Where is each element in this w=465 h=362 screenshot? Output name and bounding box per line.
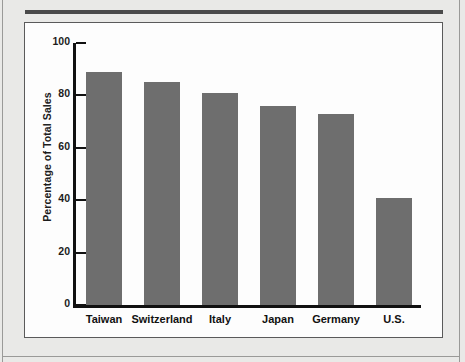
- y-axis-tick: 60: [76, 147, 86, 149]
- bar-taiwan[interactable]: [86, 72, 122, 305]
- y-axis-tick-mark: [76, 304, 86, 306]
- y-axis-tick-label: 20: [58, 245, 70, 257]
- bar-italy[interactable]: [202, 93, 238, 305]
- page-border-right: [459, 0, 460, 362]
- y-axis-tick-label: 40: [58, 192, 70, 204]
- bar-japan[interactable]: [260, 106, 296, 305]
- y-axis-tick-mark: [76, 147, 86, 149]
- page-border-bottom: [2, 356, 460, 357]
- y-axis-tick-label: 80: [58, 87, 70, 99]
- y-axis-tick: 0: [76, 304, 86, 306]
- y-axis-title: Percentage of Total Sales: [41, 57, 53, 257]
- figure-page: Percentage of Total Sales 020406080100 T…: [0, 0, 465, 362]
- y-axis-tick-mark: [76, 199, 86, 201]
- y-axis-tick: 100: [76, 42, 86, 44]
- y-axis-tick-mark: [76, 252, 86, 254]
- y-axis-tick-mark: [76, 94, 86, 96]
- y-axis-line: [73, 43, 76, 305]
- bar-germany[interactable]: [318, 114, 354, 305]
- x-axis-label: U.S.: [359, 313, 429, 325]
- chart-panel: Percentage of Total Sales 020406080100 T…: [24, 22, 443, 338]
- page-border-left: [2, 0, 3, 362]
- y-axis-tick-label: 60: [58, 140, 70, 152]
- y-axis-tick-mark: [76, 42, 86, 44]
- top-rule: [25, 10, 443, 14]
- bar-switzerland[interactable]: [144, 82, 180, 305]
- y-axis-tick-label: 0: [64, 297, 70, 309]
- bar-chart-plot: Percentage of Total Sales 020406080100 T…: [25, 23, 442, 337]
- x-axis-line: [73, 305, 421, 308]
- y-axis-tick: 80: [76, 94, 86, 96]
- y-axis-tick-label: 100: [52, 35, 70, 47]
- y-axis-tick: 20: [76, 252, 86, 254]
- bar-u-s[interactable]: [376, 198, 412, 305]
- y-axis-tick: 40: [76, 199, 86, 201]
